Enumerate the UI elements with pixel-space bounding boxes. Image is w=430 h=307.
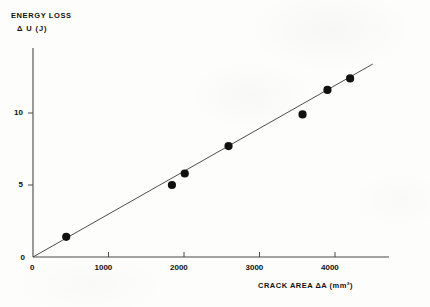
plot-area: [0, 0, 430, 307]
axis-ticks: [28, 113, 335, 257]
chart-figure: ENERGY LOSS Δ U (J) CRACK AREA ΔA (mm²) …: [0, 0, 430, 307]
fit-line: [33, 64, 373, 257]
data-point: [346, 74, 354, 82]
data-point: [323, 86, 331, 94]
axes: [33, 48, 389, 257]
data-point: [181, 169, 189, 177]
data-point: [224, 142, 232, 150]
data-point: [62, 233, 70, 241]
regression-line: [33, 64, 373, 257]
data-point: [298, 110, 306, 118]
data-point: [168, 181, 176, 189]
